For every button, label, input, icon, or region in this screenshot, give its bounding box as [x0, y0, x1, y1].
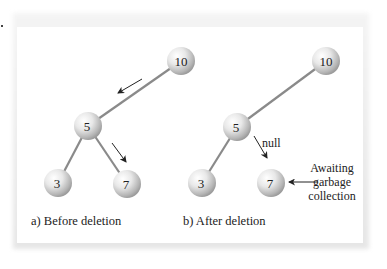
traverse-arrow-icon: [112, 143, 126, 162]
garbage-collection-annotation: Awaiting garbage collection: [308, 161, 355, 203]
tree-node: 3: [44, 169, 72, 197]
node-label: 3: [54, 176, 61, 191]
node-label: 3: [198, 176, 205, 191]
tree-node: 7: [113, 170, 141, 198]
tree-node: 5: [74, 112, 102, 140]
edge-10-5: [88, 61, 181, 126]
null-label: null: [262, 136, 281, 150]
tree-before-deletion: 10 5 3 7 a) Before deletion: [31, 47, 195, 228]
node-label: 7: [267, 176, 274, 191]
node-label: 5: [233, 120, 240, 135]
tree-after-deletion: null 10 5 3 7 Awaiting garbage collectio…: [183, 47, 356, 228]
detached-tree-node: 7: [257, 169, 285, 197]
caption-before-deletion: a) Before deletion: [31, 214, 122, 228]
edge-10-5: [237, 61, 326, 127]
caption-after-deletion: b) After deletion: [183, 214, 266, 228]
node-label: 5: [84, 119, 91, 134]
tree-node: 5: [223, 113, 251, 141]
annotation-line: garbage: [313, 175, 351, 189]
node-label: 7: [123, 177, 130, 192]
annotation-line: collection: [308, 189, 355, 203]
node-label: 10: [320, 54, 333, 69]
tree-node: 3: [188, 169, 216, 197]
bst-deletion-diagram: 10 5 3 7 a) Before deletion null 10 5: [0, 0, 387, 269]
node-label: 10: [175, 54, 188, 69]
annotation-line: Awaiting: [310, 161, 354, 175]
tree-node: 10: [167, 47, 195, 75]
tree-node: 10: [312, 47, 340, 75]
